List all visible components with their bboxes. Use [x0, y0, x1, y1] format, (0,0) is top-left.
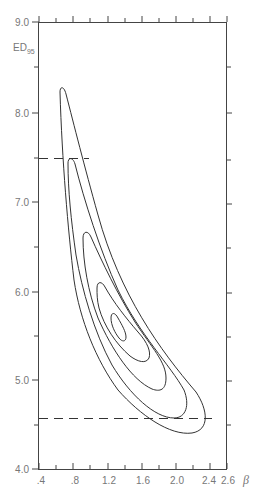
y-tick-label: 9.0	[15, 17, 29, 28]
contour-level-3	[83, 232, 166, 390]
x-tick-label: 2.0	[170, 475, 184, 486]
x-tick-label: 1.6	[136, 475, 150, 486]
y-tick-label: 4.0	[15, 464, 29, 475]
y-axis-title-subscript: 95	[27, 48, 35, 55]
x-tick-label: .8	[71, 475, 80, 486]
y-axis-title: ED95	[13, 42, 35, 55]
x-axis-bottom-ticks	[39, 463, 227, 469]
x-axis-labels: .4 .8 1.2 1.6 2.0 2.4 2.6	[37, 475, 236, 486]
y-tick-label: 6.0	[15, 287, 29, 298]
y-axis-title-main: ED	[13, 42, 27, 53]
x-tick-label: .4	[37, 475, 46, 486]
contour-chart: 9.0 8.0 7.0 6.0 5.0 4.0 ED95 .4 .8 1.2 1…	[0, 0, 263, 496]
x-tick-label: 2.4	[202, 475, 216, 486]
contour-level-1	[60, 88, 205, 434]
x-axis-top-ticks	[39, 16, 227, 22]
x-tick-label: 1.2	[102, 475, 116, 486]
plot-frame	[39, 23, 227, 470]
y-tick-label: 5.0	[15, 375, 29, 386]
x-tick-label: 2.6	[221, 475, 235, 486]
y-tick-label: 7.0	[15, 197, 29, 208]
contour-level-2	[68, 159, 187, 418]
y-axis-left-ticks	[32, 22, 39, 469]
y-tick-label: 8.0	[15, 108, 29, 119]
y-axis-labels: 9.0 8.0 7.0 6.0 5.0 4.0	[15, 17, 29, 475]
contours	[60, 88, 205, 434]
x-axis-title: β	[242, 473, 249, 487]
contour-level-4	[97, 283, 150, 362]
